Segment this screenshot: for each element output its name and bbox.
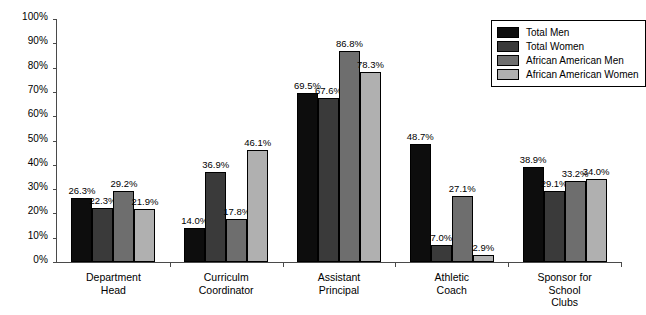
bar-value-label: 67.6% [315,86,342,96]
bar-value-label: 29.2% [110,179,137,189]
legend-item[interactable]: Total Men [497,26,639,39]
bar[interactable] [452,196,473,262]
legend-swatch [497,41,519,52]
legend-label: Total Men [526,27,569,38]
bar-value-label: 46.1% [244,138,271,148]
y-axis-tick-label: 70% [28,85,48,95]
x-axis-tick-mark [283,262,284,267]
legend-label: African American Men [526,55,624,66]
bar-value-label: 14.0% [181,216,208,226]
y-axis-tick-mark [53,262,57,263]
y-axis-tick-label: 10% [28,231,48,241]
y-axis-tick-label: 30% [28,182,48,192]
x-axis-tick-mark [508,262,509,267]
bar[interactable] [297,93,318,262]
bar-value-label: 21.9% [131,197,158,207]
y-axis-tick-label: 90% [28,36,48,46]
y-axis-tick-label: 50% [28,134,48,144]
x-axis-category-label: Department Head [57,271,170,296]
bar[interactable] [134,209,155,262]
bar-group: 14.0%36.9%17.8%46.1% [184,19,268,262]
bar[interactable] [318,98,339,262]
bar[interactable] [431,245,452,262]
bar[interactable] [92,208,113,262]
x-axis-line [56,262,621,263]
bar[interactable] [473,255,494,262]
bar-group: 26.3%22.3%29.2%21.9% [71,19,155,262]
x-axis-tick-mark [170,262,171,267]
x-axis-tick-mark [621,262,622,267]
legend-label: Total Women [526,41,584,52]
bar[interactable] [565,181,586,262]
y-axis-tick-label: 80% [28,61,48,71]
bar[interactable] [360,72,381,262]
bar-value-label: 36.9% [202,160,229,170]
legend-swatch [497,55,519,66]
bar-value-label: 78.3% [357,60,384,70]
bar[interactable] [339,51,360,262]
bar[interactable] [184,228,205,262]
y-axis-tick-label: 20% [28,206,48,216]
bar-value-label: 86.8% [336,39,363,49]
legend-item[interactable]: Total Women [497,40,639,53]
bar-value-label: 2.9% [472,243,494,253]
bar[interactable] [71,198,92,262]
bar-value-label: 27.1% [449,184,476,194]
bar[interactable] [205,172,226,262]
bar-value-label: 17.8% [223,207,250,217]
bar-value-label: 22.3% [89,196,116,206]
x-axis-tick-mark [395,262,396,267]
y-axis-tick-label: 60% [28,109,48,119]
x-axis-category-label: Assistant Principal [283,271,396,296]
x-axis-category-label: Athletic Coach [395,271,508,296]
bar[interactable] [544,191,565,262]
y-axis-tick-label: 100% [22,12,48,22]
bar-value-label: 7.0% [430,233,452,243]
chart-legend: Total MenTotal WomenAfrican American Men… [491,20,646,87]
x-axis-category-label: Sponsor for School Clubs [508,271,621,309]
bar[interactable] [247,150,268,262]
bar[interactable] [226,219,247,262]
bar-value-label: 38.9% [520,155,547,165]
legend-item[interactable]: African American Women [497,68,639,81]
x-axis-category-label: Curriculm Coordinator [170,271,283,296]
legend-label: African American Women [526,69,639,80]
bar[interactable] [410,144,431,262]
legend-swatch [497,27,519,38]
legend-swatch [497,69,519,80]
bar-group: 48.7%7.0%27.1%2.9% [410,19,494,262]
bar-value-label: 34.0% [583,167,610,177]
bar-value-label: 48.7% [407,132,434,142]
y-axis-tick-label: 0% [33,255,48,265]
y-axis-tick-label: 40% [28,158,48,168]
bar-group: 69.5%67.6%86.8%78.3% [297,19,381,262]
bar[interactable] [586,179,607,262]
legend-item[interactable]: African American Men [497,54,639,67]
bar-value-label: 29.1% [541,179,568,189]
